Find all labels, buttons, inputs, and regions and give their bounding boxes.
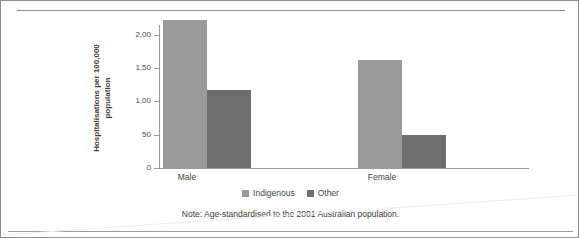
legend-swatch-other xyxy=(307,190,314,197)
legend-item-other: Other xyxy=(307,188,339,198)
legend-label-other: Other xyxy=(318,188,339,198)
chart-figure: Hospitalisations per 100,000 population … xyxy=(0,0,579,238)
legend-item-indigenous: Indigenous xyxy=(242,188,295,198)
bar-male-other xyxy=(207,90,251,168)
legend-label-indigenous: Indigenous xyxy=(253,188,295,198)
bars-layer xyxy=(1,1,579,238)
chart-note: Note: Age-standardised to the 2001 Austr… xyxy=(1,209,579,219)
chart-legend: Indigenous Other xyxy=(1,188,579,198)
x-category-label-female: Female xyxy=(342,172,422,182)
bar-female-indigenous xyxy=(358,60,402,168)
bottom-divider xyxy=(8,231,573,232)
legend-swatch-indigenous xyxy=(242,190,249,197)
bar-male-indigenous xyxy=(163,20,207,168)
chart-plot-area: Hospitalisations per 100,000 population … xyxy=(1,1,579,238)
bar-female-other xyxy=(402,135,446,168)
x-category-label-male: Male xyxy=(147,172,227,182)
